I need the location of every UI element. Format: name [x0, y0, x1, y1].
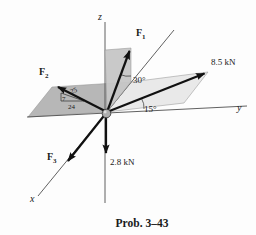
z-axis-label: z — [97, 11, 102, 22]
angle-15-label: 15° — [144, 104, 157, 114]
force-f1-label: F1 — [136, 27, 146, 41]
angle-30-label: 30° — [133, 75, 146, 85]
force-diagram-canvas: z y x F1 F2 F3 8.5 kN 2.8 kN 30° 15° 25 … — [0, 0, 256, 235]
x-axis-label: x — [29, 193, 35, 204]
origin-ball — [102, 109, 111, 118]
triangle-horizontal-leg-label: 24 — [68, 103, 76, 111]
y-axis-label: y — [236, 102, 242, 113]
force-85kn-label: 8.5 kN — [211, 57, 236, 67]
triangle-vertical-leg-label: 7 — [62, 95, 66, 103]
problem-figure: z y x F1 F2 F3 8.5 kN 2.8 kN 30° 15° 25 … — [0, 0, 256, 235]
figure-caption: Prob. 3–43 — [116, 217, 169, 229]
force-f3-arrow — [68, 112, 107, 161]
force-f3-label: F3 — [47, 151, 57, 165]
origin-ball-highlight — [104, 111, 107, 114]
force-28kn-label: 2.8 kN — [110, 157, 135, 167]
force-f2-label: F2 — [39, 66, 49, 80]
